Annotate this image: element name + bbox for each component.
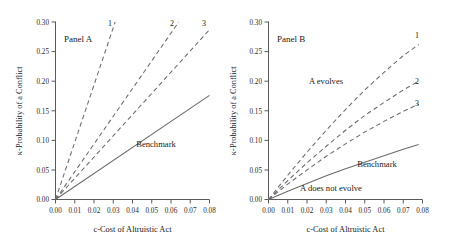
panel-a-x-axis-title: c-Cost of Altruistic Act bbox=[94, 225, 173, 234]
panel-b-yticklabel-4: 0.20 bbox=[249, 78, 262, 86]
panel-a-series-1 bbox=[56, 22, 116, 200]
panel-b-curve-label-3: 3 bbox=[415, 99, 419, 108]
panel-b-a-does-not-evolve-label: A does not evolve bbox=[300, 183, 362, 193]
panel-a-series-benchmark bbox=[56, 95, 210, 199]
panel-b-yticklabel-0: 0.00 bbox=[249, 196, 262, 204]
panel-b-y-axis-title: κ-Probability of a Conflict bbox=[229, 66, 238, 155]
panel-b-plot: 0.00 0.05 0.10 0.15 0.20 0.25 0.30 bbox=[226, 0, 452, 249]
panel-a: 0.00 0.05 0.10 0.15 0.20 0.25 0.30 bbox=[0, 0, 226, 249]
panel-a-yticklabel-6: 0.30 bbox=[36, 19, 49, 27]
panel-a-x-ticks bbox=[56, 200, 210, 204]
panel-a-yticklabel-2: 0.10 bbox=[36, 137, 49, 145]
panel-a-benchmark-label: Benchmark bbox=[136, 139, 176, 149]
panel-b-y-ticklabels: 0.00 0.05 0.10 0.15 0.20 0.25 0.30 bbox=[249, 19, 262, 205]
panel-b-benchmark-label: Benchmark bbox=[357, 159, 397, 169]
panel-a-series-2 bbox=[56, 22, 179, 200]
panel-a-yticklabel-3: 0.15 bbox=[36, 108, 49, 116]
panel-b-xticklabel-2: 0.02 bbox=[301, 207, 314, 215]
panel-b-xticklabel-5: 0.05 bbox=[358, 207, 371, 215]
panel-a-curve-label-2: 2 bbox=[170, 19, 174, 28]
panel-a-series bbox=[56, 22, 210, 200]
panel-b-series-2 bbox=[269, 81, 419, 199]
panel-a-xticklabel-8: 0.08 bbox=[203, 207, 216, 215]
panel-b-xticklabel-7: 0.07 bbox=[397, 207, 410, 215]
panel-b-y-ticks bbox=[265, 22, 269, 200]
panel-a-yticklabel-1: 0.05 bbox=[36, 167, 49, 175]
panel-a-xticklabel-7: 0.07 bbox=[184, 207, 197, 215]
panel-b: 0.00 0.05 0.10 0.15 0.20 0.25 0.30 bbox=[226, 0, 452, 249]
panel-a-y-ticklabels: 0.00 0.05 0.10 0.15 0.20 0.25 0.30 bbox=[36, 19, 49, 205]
panel-a-plot: 0.00 0.05 0.10 0.15 0.20 0.25 0.30 bbox=[0, 0, 226, 249]
panel-a-yticklabel-5: 0.25 bbox=[36, 48, 49, 56]
figure-two-panel-chart: 0.00 0.05 0.10 0.15 0.20 0.25 0.30 bbox=[0, 0, 452, 249]
panel-b-curve-label-2: 2 bbox=[415, 77, 419, 86]
panel-b-xticklabel-3: 0.03 bbox=[320, 207, 333, 215]
panel-a-y-ticks bbox=[52, 22, 56, 200]
panel-b-xticklabel-6: 0.06 bbox=[378, 207, 391, 215]
panel-a-yticklabel-4: 0.20 bbox=[36, 78, 49, 86]
panel-a-curve-label-3: 3 bbox=[202, 19, 206, 28]
panel-b-xticklabel-8: 0.08 bbox=[416, 207, 429, 215]
panel-b-curve-label-1: 1 bbox=[415, 31, 419, 40]
panel-b-yticklabel-3: 0.15 bbox=[249, 108, 262, 116]
panel-b-yticklabel-2: 0.10 bbox=[249, 137, 262, 145]
panel-b-a-evolves-label: A evolves bbox=[309, 76, 344, 86]
panel-a-yticklabel-0: 0.00 bbox=[36, 196, 49, 204]
panel-b-series-1 bbox=[269, 44, 419, 199]
panel-b-x-axis-title: c-Cost of Altruistic Act bbox=[307, 225, 386, 234]
panel-a-label: Panel A bbox=[64, 34, 93, 44]
panel-a-xticklabel-6: 0.06 bbox=[165, 207, 178, 215]
panel-a-xticklabel-1: 0.01 bbox=[68, 207, 81, 215]
panel-a-xticklabel-3: 0.03 bbox=[107, 207, 120, 215]
panel-a-xticklabel-5: 0.05 bbox=[145, 207, 158, 215]
panel-b-yticklabel-6: 0.30 bbox=[249, 19, 262, 27]
panel-b-yticklabel-5: 0.25 bbox=[249, 48, 262, 56]
panel-a-series-3 bbox=[56, 30, 210, 200]
panel-b-x-ticks bbox=[269, 200, 423, 204]
panel-b-x-ticklabels: 0.00 0.01 0.02 0.03 0.04 0.05 0.06 0.07 … bbox=[262, 207, 429, 215]
panel-a-curve-label-1: 1 bbox=[108, 19, 112, 28]
panel-a-xticklabel-4: 0.04 bbox=[126, 207, 139, 215]
panel-a-y-axis-title: κ-Probability of a Conflict bbox=[15, 66, 24, 155]
panel-b-series bbox=[269, 44, 419, 199]
panel-b-label: Panel B bbox=[277, 34, 305, 44]
panel-a-xticklabel-2: 0.02 bbox=[88, 207, 101, 215]
panel-b-xticklabel-1: 0.01 bbox=[281, 207, 294, 215]
panel-a-x-ticklabels: 0.00 0.01 0.02 0.03 0.04 0.05 0.06 0.07 … bbox=[49, 207, 216, 215]
panel-b-xticklabel-0: 0.00 bbox=[262, 207, 275, 215]
panel-b-yticklabel-1: 0.05 bbox=[249, 167, 262, 175]
panel-b-xticklabel-4: 0.04 bbox=[339, 207, 352, 215]
panel-a-xticklabel-0: 0.00 bbox=[49, 207, 62, 215]
